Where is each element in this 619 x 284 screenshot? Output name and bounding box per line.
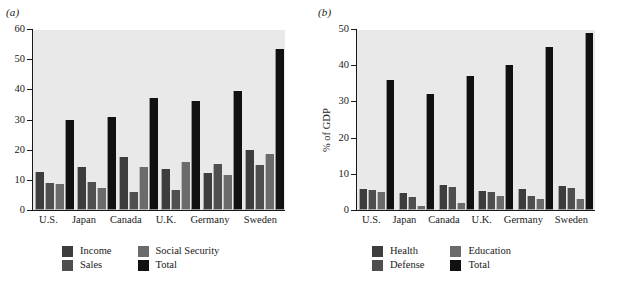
legend-swatch-icon — [372, 246, 383, 257]
bar-total-uk — [505, 65, 513, 210]
bar-sales-japan — [87, 182, 96, 210]
panel-a-x-axis-labels: U.S.JapanCanadaU.K.GermanySweden — [32, 214, 284, 225]
panel-a-bar-groups — [33, 30, 285, 210]
bar-education-uk — [496, 196, 504, 210]
legend-item-education: Education — [450, 246, 511, 257]
bar-group-uk — [161, 30, 200, 210]
y-tick-mark — [351, 65, 357, 66]
bar-total-canada — [149, 98, 158, 210]
bar-defense-uk — [487, 192, 495, 210]
x-axis-label-sweden: Sweden — [244, 214, 277, 225]
bar-total-canada — [466, 76, 474, 210]
bar-socialsecurity-uk — [181, 162, 190, 210]
x-axis-label-japan: Japan — [392, 214, 416, 225]
panel-b-x-axis-labels: U.S.JapanCanadaU.K.GermanySweden — [356, 214, 594, 225]
bar-group-canada — [439, 30, 474, 210]
y-tick-mark — [27, 59, 33, 60]
y-tick-mark — [351, 174, 357, 175]
legend-swatch-icon — [450, 260, 461, 271]
bar-group-germany — [518, 30, 553, 210]
legend-label: Education — [468, 246, 511, 257]
bar-socialsecurity-japan — [97, 188, 106, 210]
bar-health-japan — [399, 193, 407, 210]
panel-b-bar-groups — [357, 30, 595, 210]
bar-total-japan — [107, 117, 116, 210]
y-tick-mark — [351, 101, 357, 102]
y-tick-mark — [351, 29, 357, 30]
bar-health-canada — [439, 185, 447, 210]
bar-education-sweden — [576, 199, 584, 210]
legend-swatch-icon — [62, 246, 73, 257]
bar-defense-japan — [408, 197, 416, 210]
y-tick-label: 10 — [15, 175, 26, 186]
legend-swatch-icon — [372, 260, 383, 271]
bar-group-japan — [399, 30, 434, 210]
legend-item-income: Income — [62, 246, 112, 257]
y-tick-mark — [27, 29, 33, 30]
bar-total-germany — [233, 91, 242, 210]
x-axis-label-sweden: Sweden — [555, 214, 588, 225]
bar-education-us — [377, 192, 385, 210]
x-axis-label-uk: U.K. — [156, 214, 176, 225]
bar-total-uk — [191, 101, 200, 210]
panel-b-legend: HealthEducationDefenseTotal — [372, 246, 511, 271]
bar-defense-sweden — [567, 188, 575, 210]
legend-label: Total — [156, 260, 177, 271]
panel-b-plot-area: 01020304050 — [356, 30, 595, 211]
legend-item-socialsecurity: Social Security — [138, 246, 220, 257]
legend-swatch-icon — [138, 260, 149, 271]
bar-group-japan — [77, 30, 116, 210]
bar-education-canada — [457, 203, 465, 210]
x-axis-label-japan: Japan — [72, 214, 96, 225]
bar-defense-us — [368, 190, 376, 210]
panel-a-legend: IncomeSocial SecuritySalesTotal — [62, 246, 219, 271]
y-tick-mark — [351, 138, 357, 139]
bar-sales-germany — [213, 164, 222, 210]
bar-income-canada — [119, 157, 128, 210]
bar-income-sweden — [245, 150, 254, 210]
bar-group-us — [359, 30, 394, 210]
y-tick-mark — [27, 180, 33, 181]
legend-label: Social Security — [156, 246, 220, 257]
bar-sales-us — [45, 183, 54, 210]
bar-socialsecurity-us — [55, 184, 64, 210]
y-tick-label: 50 — [339, 24, 350, 35]
panel-b-tag: (b) — [318, 6, 331, 18]
figure-two-panel-bar-charts: (a) 0102030405060 U.S.JapanCanadaU.K.Ger… — [0, 0, 619, 284]
bar-total-us — [386, 80, 394, 210]
y-tick-mark — [27, 150, 33, 151]
bar-health-germany — [518, 189, 526, 210]
panel-b-y-axis-title: % of GDP — [321, 108, 332, 152]
legend-item-total: Total — [450, 260, 511, 271]
y-tick-label: 30 — [15, 114, 26, 125]
panel-b: (b) % of GDP 01020304050 U.S.JapanCanada… — [310, 0, 619, 284]
legend-swatch-icon — [62, 260, 73, 271]
x-axis-label-canada: Canada — [428, 214, 460, 225]
bar-income-uk — [161, 169, 170, 210]
legend-label: Defense — [390, 260, 424, 271]
bar-group-uk — [478, 30, 513, 210]
y-tick-label: 40 — [339, 60, 350, 71]
y-tick-label: 0 — [20, 205, 25, 216]
bar-sales-sweden — [255, 165, 264, 210]
bar-total-sweden — [275, 49, 284, 210]
bar-total-us — [65, 120, 74, 211]
y-tick-label: 60 — [15, 24, 26, 35]
bar-education-germany — [536, 199, 544, 210]
legend-label: Sales — [80, 260, 102, 271]
bar-socialsecurity-germany — [223, 175, 232, 210]
bar-socialsecurity-sweden — [265, 154, 274, 210]
bar-group-sweden — [558, 30, 593, 210]
legend-swatch-icon — [450, 246, 461, 257]
bar-health-us — [359, 189, 367, 210]
y-tick-label: 40 — [15, 84, 26, 95]
bar-group-us — [35, 30, 74, 210]
y-tick-label: 50 — [15, 54, 26, 65]
y-tick-label: 10 — [339, 169, 350, 180]
x-axis-label-uk: U.K. — [472, 214, 492, 225]
x-axis-label-germany: Germany — [504, 214, 543, 225]
y-tick-label: 0 — [344, 205, 349, 216]
legend-item-total: Total — [138, 260, 220, 271]
bar-total-japan — [426, 94, 434, 210]
bar-income-us — [35, 172, 44, 210]
